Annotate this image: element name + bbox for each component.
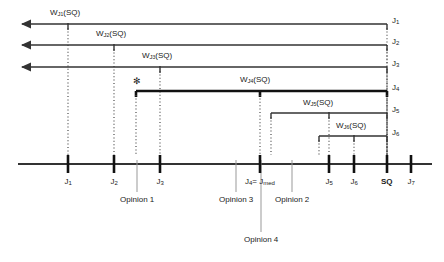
opinion-label-opinion-4: Opinion 4	[244, 236, 278, 244]
axis-tick-label-J4: J4= Jmed	[245, 178, 275, 186]
axis-tick-label-J7: J7	[408, 178, 415, 186]
axis-tick-label-J6: J6	[351, 178, 358, 186]
opinion-label-opinion-3: Opinion 3	[219, 196, 253, 204]
endpoint-label-end-J2: J2	[392, 38, 399, 46]
weight-label-WJ1: WJ1(SQ)	[50, 9, 80, 17]
axis-tick-label-SQ: SQ	[381, 178, 393, 186]
opinion-label-opinion-2: Opinion 2	[275, 196, 309, 204]
diagram-canvas: WJ1(SQ)WJ2(SQ)WJ3(SQ)WJ4(SQ)WJ5(SQ)WJ6(S…	[0, 0, 444, 262]
axis-tick-label-J3: J3	[157, 178, 164, 186]
weight-label-WJ2: WJ2(SQ)	[96, 30, 126, 38]
weight-span-arrowhead-WJ3	[21, 62, 31, 71]
asterisk-marker: ✻	[133, 77, 141, 86]
endpoint-label-end-J6: J6	[392, 129, 399, 137]
weight-span-arrowhead-WJ2	[21, 40, 31, 49]
axis-tick-label-J2: J2	[111, 178, 118, 186]
diagram-graphics	[0, 0, 444, 262]
endpoint-label-end-J3: J3	[392, 60, 399, 68]
opinion-label-opinion-1: Opinion 1	[120, 196, 154, 204]
axis-tick-label-J1: J1	[65, 178, 72, 186]
weight-span-arrowhead-WJ1	[21, 19, 31, 28]
weight-label-WJ5: WJ5(SQ)	[303, 99, 333, 107]
axis-tick-label-J5: J5	[326, 178, 333, 186]
weight-label-WJ3: WJ3(SQ)	[142, 52, 172, 60]
endpoint-label-end-J5: J5	[392, 106, 399, 114]
weight-label-WJ6: WJ6(SQ)	[336, 122, 366, 130]
endpoint-label-end-J1: J1	[392, 17, 399, 25]
weight-label-WJ4: WJ4(SQ)	[240, 76, 270, 84]
endpoint-label-end-J4: J4	[392, 84, 399, 92]
